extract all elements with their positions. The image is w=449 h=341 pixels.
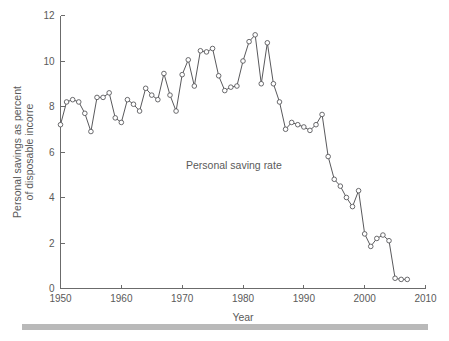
tick-labels-group: 0246810121950196019701980199020002010 (43, 10, 437, 304)
y-tick-label-6: 6 (49, 147, 55, 158)
series-line-0 (61, 35, 408, 280)
data-point-marker (64, 100, 69, 105)
data-point-marker (180, 72, 185, 77)
data-point-marker (350, 204, 355, 209)
data-point-marker (119, 120, 124, 125)
data-point-marker (368, 244, 373, 249)
y-tick-label-8: 8 (49, 101, 55, 112)
data-point-marker (393, 276, 398, 281)
data-point-marker (247, 39, 252, 44)
data-point-marker (332, 177, 337, 182)
y-tick-label-4: 4 (49, 192, 55, 203)
data-point-marker (356, 188, 361, 193)
data-point-marker (76, 100, 81, 105)
data-series-group (58, 33, 409, 282)
data-point-marker (156, 97, 161, 102)
data-point-marker (101, 95, 106, 100)
data-point-marker (253, 33, 258, 38)
data-point-marker (344, 195, 349, 200)
data-point-marker (405, 277, 410, 282)
data-point-marker (125, 97, 130, 102)
y-axis-title-line-0: Personal savings as percent (11, 86, 23, 218)
data-point-marker (320, 112, 325, 117)
data-point-marker (277, 100, 282, 105)
chart-annotation-0: Personal saving rate (186, 159, 282, 171)
data-point-marker (381, 233, 386, 238)
data-point-marker (143, 86, 148, 91)
data-point-marker (295, 122, 300, 127)
data-point-marker (229, 85, 234, 90)
data-point-marker (283, 127, 288, 132)
data-point-marker (375, 236, 380, 241)
annotations-group: Personal saving rate (186, 159, 282, 171)
data-point-marker (314, 122, 319, 127)
x-tick-label-2010: 2010 (414, 293, 437, 304)
data-point-marker (338, 184, 343, 189)
data-point-marker (198, 48, 203, 53)
footer-rule (22, 324, 428, 330)
data-point-marker (302, 125, 307, 130)
data-point-marker (137, 109, 142, 114)
data-point-marker (186, 58, 191, 63)
data-point-marker (326, 154, 331, 159)
data-point-marker (271, 81, 276, 86)
figure-container: 0246810121950196019701980199020002010 Pe… (0, 0, 449, 341)
x-tick-label-2000: 2000 (354, 293, 377, 304)
data-point-marker (131, 102, 136, 107)
data-point-marker (265, 41, 270, 46)
data-point-marker (89, 129, 94, 134)
y-axis-title: Personal savings as percentof disposable… (11, 86, 35, 218)
data-point-marker (241, 59, 246, 64)
personal-saving-rate-chart: 0246810121950196019701980199020002010 Pe… (0, 0, 449, 341)
data-point-marker (95, 95, 100, 100)
data-point-marker (222, 88, 227, 93)
x-tick-label-1980: 1980 (232, 293, 255, 304)
x-tick-label-1950: 1950 (49, 293, 72, 304)
data-point-marker (168, 93, 173, 98)
data-point-marker (192, 84, 197, 89)
data-point-marker (58, 122, 63, 127)
data-point-marker (149, 93, 154, 98)
y-tick-label-10: 10 (43, 56, 55, 67)
x-tick-label-1990: 1990 (293, 293, 316, 304)
data-point-marker (162, 71, 167, 76)
data-point-marker (174, 109, 179, 114)
x-tick-label-1970: 1970 (171, 293, 194, 304)
data-point-marker (216, 73, 221, 78)
x-axis-title: Year (232, 311, 254, 323)
data-point-marker (83, 111, 88, 116)
axis-titles-group: YearPersonal savings as percentof dispos… (11, 86, 254, 323)
data-point-marker (362, 232, 367, 237)
data-point-marker (259, 81, 264, 86)
data-point-marker (289, 120, 294, 125)
y-tick-label-2: 2 (49, 238, 55, 249)
y-axis-title-line-1: of disposable incorre (23, 103, 35, 200)
data-point-marker (113, 116, 118, 121)
data-point-marker (70, 97, 75, 102)
data-point-marker (387, 238, 392, 243)
data-point-marker (107, 91, 112, 96)
data-point-marker (235, 84, 240, 89)
data-point-marker (210, 46, 215, 51)
x-tick-label-1960: 1960 (110, 293, 133, 304)
data-point-marker (308, 128, 313, 133)
data-point-marker (399, 277, 404, 282)
data-point-marker (204, 50, 209, 55)
y-tick-label-12: 12 (43, 10, 55, 21)
